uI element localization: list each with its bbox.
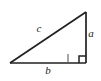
hypotenuse-label: c	[33, 23, 45, 34]
right-triangle-figure: c a b	[0, 0, 101, 81]
horizontal-leg-label: b	[42, 65, 54, 76]
vertical-leg-label: a	[85, 28, 97, 39]
